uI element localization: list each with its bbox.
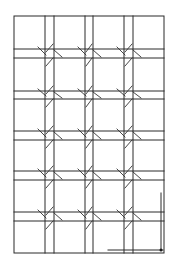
brace-diagonal [46, 166, 53, 174]
brace-diagonal [46, 180, 53, 188]
brace-diagonal [86, 180, 92, 188]
brace-diagonal [125, 58, 132, 66]
brace-diagonal [125, 166, 132, 174]
brace-diagonal [46, 99, 53, 107]
brace-diagonal [86, 166, 92, 174]
corner-dot [160, 249, 163, 252]
brace-diagonal [46, 44, 53, 52]
brace-diagonal [125, 221, 132, 229]
brace-diagonal [46, 221, 53, 229]
brace-diagonal [93, 132, 101, 139]
brace-diagonal [86, 140, 92, 148]
outer-frame [14, 16, 164, 253]
brace-diagonal [46, 207, 53, 215]
brace-diagonal [133, 172, 141, 179]
brace-diagonal [86, 126, 92, 134]
brace-diagonal [133, 92, 141, 98]
brace-diagonal [93, 50, 101, 57]
brace-diagonal [86, 86, 92, 94]
brace-diagonal [86, 58, 92, 66]
brace-diagonal [54, 132, 62, 139]
grid-drawing [0, 0, 177, 271]
brace-diagonal [125, 126, 132, 134]
brace-diagonal [46, 126, 53, 134]
brace-diagonal [86, 207, 92, 215]
grid-diagram [0, 0, 177, 271]
brace-diagonal [133, 213, 141, 220]
brace-diagonal [54, 92, 62, 98]
brace-diagonal [93, 172, 101, 179]
brace-diagonal [93, 213, 101, 220]
brace-diagonal [86, 99, 92, 107]
brace-diagonal [133, 132, 141, 139]
brace-diagonal [54, 50, 62, 57]
brace-diagonal [125, 180, 132, 188]
brace-diagonal [54, 213, 62, 220]
brace-diagonal [125, 207, 132, 215]
brace-diagonal [125, 44, 132, 52]
brace-diagonal [125, 86, 132, 94]
brace-diagonal [125, 140, 132, 148]
brace-diagonal [86, 221, 92, 229]
brace-diagonal [93, 92, 101, 98]
brace-diagonal [133, 50, 141, 57]
brace-diagonal [46, 140, 53, 148]
brace-diagonal [86, 44, 92, 52]
brace-diagonal [125, 99, 132, 107]
brace-diagonal [46, 86, 53, 94]
brace-diagonal [54, 172, 62, 179]
brace-diagonal [46, 58, 53, 66]
